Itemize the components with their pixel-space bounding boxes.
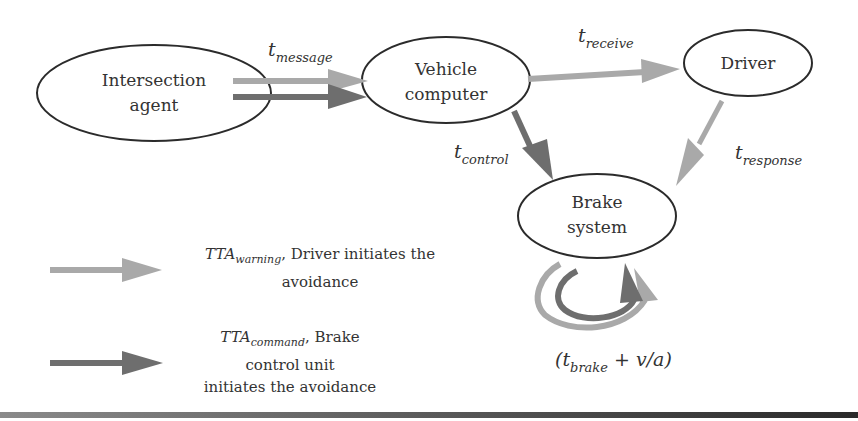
- edge-label-receive: treceive: [578, 24, 634, 51]
- edge-label-message: tmessage: [268, 38, 333, 65]
- legend-line: control unit: [180, 354, 400, 376]
- edge-label-rest: + v/a): [608, 348, 672, 370]
- label-vehicle-computer: Vehicle computer: [380, 57, 512, 107]
- edge-label-base: t: [454, 140, 462, 162]
- legend-line: TTAcommand, Brake: [180, 326, 400, 354]
- bottom-rule: [0, 412, 858, 418]
- label-line: computer: [380, 82, 512, 107]
- arrow-control: [514, 111, 553, 180]
- legend-sub: command: [251, 336, 305, 349]
- legend-tta: TTA: [205, 245, 235, 263]
- edge-label-response: tresponse: [735, 141, 802, 168]
- arrow-response: [676, 101, 722, 186]
- edge-label-base: t: [735, 141, 743, 163]
- label-line: Vehicle: [380, 57, 512, 82]
- label-line: Driver: [698, 51, 798, 76]
- legend-text: , Driver initiates the: [281, 245, 435, 263]
- legend-sub: warning: [235, 253, 281, 266]
- label-brake-system: Brake system: [540, 190, 654, 240]
- label-line: Intersection: [84, 68, 224, 93]
- legend-line: initiates the avoidance: [180, 376, 400, 398]
- edge-label-sub: receive: [586, 36, 634, 51]
- label-line: agent: [84, 93, 224, 118]
- label-driver: Driver: [698, 51, 798, 76]
- label-intersection-agent: Intersection agent: [84, 68, 224, 118]
- label-line: Brake: [540, 190, 654, 215]
- legend-warning: TTAwarning, Driver initiates the avoidan…: [180, 243, 460, 293]
- edge-label-sub: message: [276, 50, 333, 65]
- legend-command: TTAcommand, Brake control unit initiates…: [180, 326, 400, 398]
- loop-brake-command: [558, 263, 643, 318]
- legend-arrow-warning: [50, 258, 162, 282]
- edge-label-sub: response: [743, 153, 802, 168]
- edge-label-base: t: [268, 38, 276, 60]
- edge-label-sub: control: [462, 152, 509, 167]
- edge-label-sub: brake: [570, 360, 608, 375]
- edge-label-base: (t: [555, 348, 570, 370]
- label-line: system: [540, 215, 654, 240]
- legend-line: avoidance: [180, 271, 460, 293]
- edge-label-base: t: [578, 24, 586, 46]
- legend-tta: TTA: [220, 328, 250, 346]
- legend-arrow-command: [50, 351, 163, 375]
- edge-label-brake: (tbrake + v/a): [555, 348, 672, 375]
- legend-line: TTAwarning, Driver initiates the: [180, 243, 460, 271]
- edge-label-control: tcontrol: [454, 140, 509, 167]
- arrow-receive: [528, 59, 680, 83]
- legend-text: , Brake: [305, 328, 360, 346]
